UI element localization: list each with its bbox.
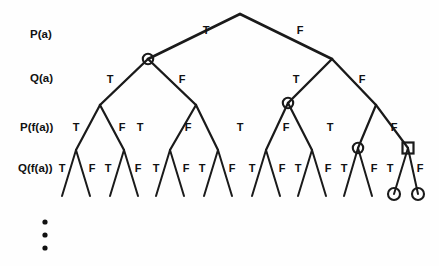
edge-label-level4-12-true: T bbox=[341, 162, 348, 174]
edge-label-level1-0-true: T bbox=[203, 24, 210, 36]
branch-level2-1-false bbox=[332, 59, 376, 105]
row-q-fa-label: Q(f(a)) bbox=[18, 162, 53, 174]
edge-label-level2-0-true: T bbox=[107, 73, 114, 85]
edge-label-level4-10-true: T bbox=[295, 162, 302, 174]
edge-label-level4-2-true: T bbox=[105, 162, 112, 174]
edge-label-level4-0-true: T bbox=[59, 162, 66, 174]
branch-level3-0-true bbox=[76, 105, 100, 150]
edge-label-level4-14-true: T bbox=[387, 162, 394, 174]
branch-level3-3-true bbox=[358, 105, 376, 148]
edge-label-level3-3-false: F bbox=[185, 121, 192, 133]
row-q-a-label: Q(a) bbox=[30, 72, 53, 84]
edge-label-level4-8-true: T bbox=[249, 162, 256, 174]
edge-label-level3-2-true: T bbox=[137, 121, 144, 133]
branch-level4-7-true bbox=[394, 148, 408, 194]
branch-level1-false bbox=[240, 14, 332, 59]
ellipsis-dot-2 bbox=[42, 245, 47, 250]
edge-label-level4-3-false: F bbox=[135, 162, 142, 174]
edge-label-level4-13-false: F bbox=[371, 162, 378, 174]
branch-level3-2-false bbox=[288, 103, 312, 150]
edge-label-level2-2-true: T bbox=[293, 73, 300, 85]
edge-label-level3-7-false: F bbox=[391, 121, 398, 133]
edge-label-level4-9-false: F bbox=[279, 162, 286, 174]
edge-label-level3-6-true: T bbox=[327, 121, 334, 133]
branch-level2-0-false bbox=[148, 59, 196, 105]
edge-label-level4-7-false: F bbox=[229, 162, 236, 174]
edge-label-level1-1-false: F bbox=[297, 24, 304, 36]
semantic-tree-figure: TFTFTFTFTFTFTFTFTFTFTFTFTFTFTF P(a)Q(a)P… bbox=[0, 0, 439, 266]
edge-label-level3-5-false: F bbox=[283, 121, 290, 133]
row-p-fa-label: P(f(a)) bbox=[20, 121, 53, 133]
branch-level4-3-true bbox=[204, 150, 218, 196]
edge-label-level4-15-false: F bbox=[417, 162, 424, 174]
edge-label-level3-0-true: T bbox=[73, 121, 80, 133]
vertical-ellipsis bbox=[42, 219, 47, 250]
branch-level3-1-false bbox=[196, 105, 218, 150]
edge-label-level2-3-false: F bbox=[359, 73, 366, 85]
ellipsis-dot-1 bbox=[42, 232, 47, 237]
edge-label-level4-11-false: F bbox=[325, 162, 332, 174]
branch-level4-1-true bbox=[110, 150, 124, 196]
edge-label-level4-5-false: F bbox=[183, 162, 190, 174]
edge-label-level2-1-false: F bbox=[179, 73, 186, 85]
edge-label-level4-4-true: T bbox=[153, 162, 160, 174]
tree-diagram: TFTFTFTFTFTFTFTFTFTFTFTFTFTFTF P(a)Q(a)P… bbox=[0, 0, 439, 266]
branch-level1-true bbox=[148, 14, 240, 59]
ellipsis-dot-0 bbox=[42, 219, 47, 224]
edge-label-level4-6-true: T bbox=[199, 162, 206, 174]
edge-label-level3-1-false: F bbox=[119, 121, 126, 133]
edge-label-level3-4-true: T bbox=[237, 121, 244, 133]
tree-branches bbox=[62, 14, 418, 196]
row-p-a-label: P(a) bbox=[30, 28, 52, 40]
edge-label-level4-1-false: F bbox=[89, 162, 96, 174]
branch-level3-1-true bbox=[170, 105, 196, 150]
tree-row-labels: P(a)Q(a)P(f(a))Q(f(a)) bbox=[18, 28, 53, 174]
